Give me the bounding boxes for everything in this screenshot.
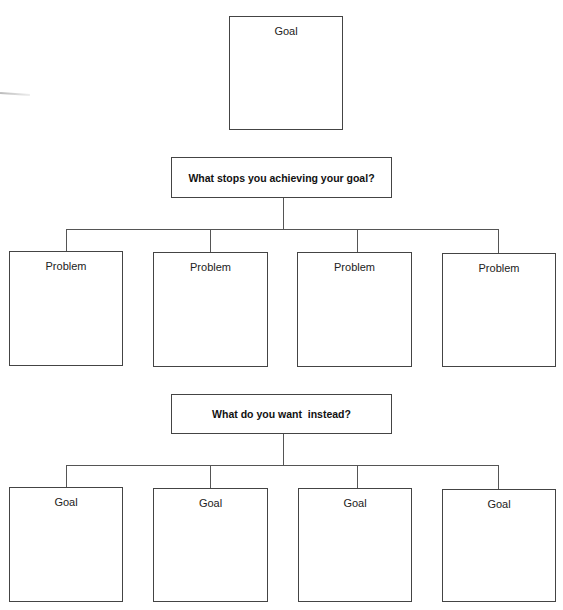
question-instead-label: What do you want instead? bbox=[212, 408, 351, 420]
connector-goal-3 bbox=[357, 465, 358, 488]
connector-goals-bar bbox=[66, 465, 499, 466]
goal-box-4: Goal bbox=[442, 489, 556, 602]
problem-box-2: Problem bbox=[153, 252, 268, 367]
goal-label: Goal bbox=[443, 498, 555, 510]
root-goal-label: Goal bbox=[230, 25, 342, 37]
problem-label: Problem bbox=[298, 261, 411, 273]
connector-q2-down bbox=[283, 434, 284, 466]
connector-problem-4 bbox=[498, 229, 499, 253]
question-obstacles-label: What stops you achieving your goal? bbox=[188, 172, 374, 184]
goal-label: Goal bbox=[154, 497, 267, 509]
connector-goal-1 bbox=[66, 465, 67, 487]
goal-box-3: Goal bbox=[298, 488, 412, 602]
question-obstacles-box: What stops you achieving your goal? bbox=[171, 157, 392, 198]
problem-label: Problem bbox=[10, 260, 122, 272]
connector-goal-4 bbox=[498, 465, 499, 489]
problem-box-1: Problem bbox=[9, 251, 123, 366]
question-instead-box: What do you want instead? bbox=[171, 394, 392, 434]
root-goal-box: Goal bbox=[229, 16, 343, 130]
problem-box-4: Problem bbox=[442, 253, 556, 367]
connector-problems-bar bbox=[66, 229, 499, 230]
connector-problem-1 bbox=[66, 229, 67, 251]
connector-problem-3 bbox=[357, 229, 358, 252]
connector-q1-down bbox=[283, 198, 284, 230]
problem-box-3: Problem bbox=[297, 252, 412, 367]
connector-goal-2 bbox=[210, 465, 211, 488]
goal-box-1: Goal bbox=[9, 487, 123, 602]
connector-problem-2 bbox=[210, 229, 211, 252]
scan-artifact-line bbox=[0, 92, 30, 96]
problem-label: Problem bbox=[443, 262, 555, 274]
problem-label: Problem bbox=[154, 261, 267, 273]
goal-label: Goal bbox=[10, 496, 122, 508]
goal-label: Goal bbox=[299, 497, 411, 509]
goal-box-2: Goal bbox=[153, 488, 268, 602]
